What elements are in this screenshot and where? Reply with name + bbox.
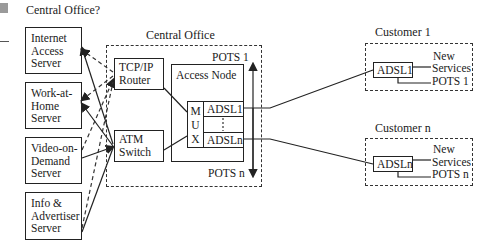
tcpip-router: TCP/IP Router — [114, 58, 164, 90]
adsl-modem-1: ADSL1 — [203, 101, 244, 117]
switch-label-line: Switch — [119, 146, 159, 159]
customer-n-output-new: New — [433, 143, 455, 156]
server-label-line: Advertiser — [31, 210, 76, 223]
server-label-line: Server — [31, 222, 76, 235]
customer-n-output-pots: POTS n — [432, 168, 469, 181]
customer-1-adsl-modem: ADSL1 — [373, 62, 413, 78]
server-label-line: Video-on- — [31, 142, 76, 155]
adsl-modem-n: ADSLn — [203, 132, 244, 148]
server-work-at-home: Work-at- Home Server — [25, 82, 82, 129]
access-node-label: Access Node — [176, 69, 236, 82]
pots-n-label: POTS n — [208, 167, 245, 180]
customer-n-modem-label: ADSLn — [377, 158, 413, 171]
atm-switch: ATM Switch — [114, 130, 164, 162]
customer-1-modem-label: ADSL1 — [377, 64, 413, 77]
customer-n-output-services: Services — [432, 156, 471, 169]
pots-1-label: POTS 1 — [212, 51, 249, 64]
server-label-line: Server — [31, 57, 76, 70]
mux: M U X — [187, 101, 204, 148]
mux-letter: M — [188, 104, 203, 118]
mux-letter: X — [188, 132, 203, 146]
server-label-line: Server — [31, 167, 76, 180]
customer-1-output-services: Services — [432, 62, 471, 75]
router-label-line: Router — [119, 74, 159, 87]
adsl-n-label: ADSLn — [207, 134, 243, 147]
adsl-architecture-diagram: Central Office? — [0, 0, 497, 248]
router-label-line: TCP/IP — [119, 61, 159, 74]
server-info-advertiser: Info & Advertiser Server — [25, 192, 82, 240]
customer-1-output-new: New — [433, 50, 455, 63]
mux-letter: U — [188, 118, 203, 132]
adsl-column-frame — [203, 116, 244, 133]
server-internet-access: Internet Access Server — [25, 27, 82, 74]
customer-n-label: Customer n — [375, 122, 431, 135]
customer-1-label: Customer 1 — [375, 26, 431, 39]
server-label-line: Server — [31, 112, 76, 125]
central-office-label: Central Office — [146, 29, 215, 42]
customer-n-adsl-modem: ADSLn — [373, 156, 413, 172]
customer-1-output-pots: POTS 1 — [432, 75, 469, 88]
switch-label-line: ATM — [119, 133, 159, 146]
server-label-line: Demand — [31, 155, 76, 168]
server-video-on-demand: Video-on- Demand Server — [25, 137, 82, 184]
server-label-line: Work-at- — [31, 87, 76, 100]
server-label-line: Home — [31, 100, 76, 113]
server-label-line: Info & — [31, 197, 76, 210]
adsl-1-label: ADSL1 — [207, 103, 243, 116]
server-label-line: Internet — [31, 32, 76, 45]
server-label-line: Access — [31, 45, 76, 58]
